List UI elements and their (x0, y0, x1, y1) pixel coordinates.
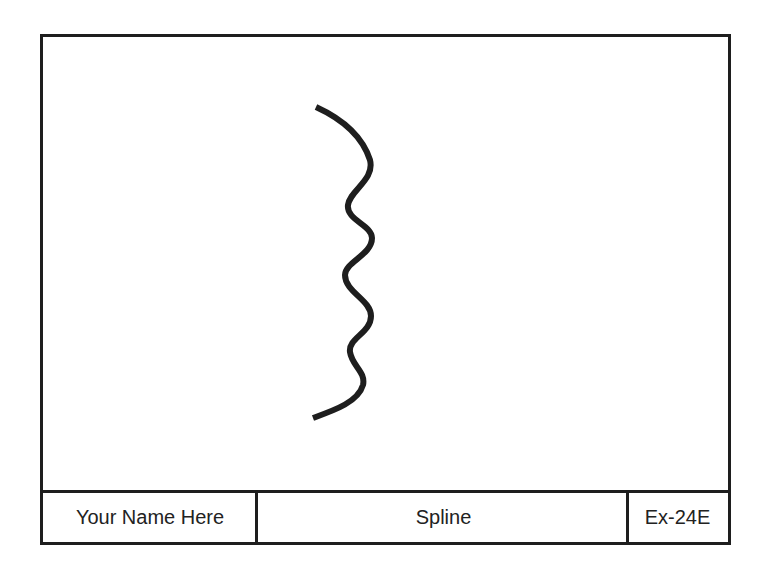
drawing-title: Spline (259, 493, 628, 542)
title-block-separator (255, 490, 258, 542)
title-block: Your Name Here Spline Ex-24E (40, 490, 731, 542)
spline-drawing (0, 0, 766, 571)
spline-curve (313, 107, 372, 418)
title-block-separator (626, 490, 629, 542)
exercise-code: Ex-24E (630, 493, 725, 542)
name-field: Your Name Here (43, 493, 257, 542)
